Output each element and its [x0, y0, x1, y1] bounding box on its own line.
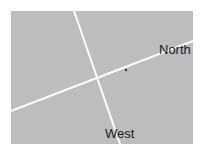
west-label: West [105, 127, 134, 140]
map-panel [11, 11, 193, 144]
street-diagram: North West [0, 0, 205, 154]
diagram-canvas [0, 0, 205, 154]
location-marker-dot [125, 69, 127, 71]
north-label: North [159, 43, 191, 56]
